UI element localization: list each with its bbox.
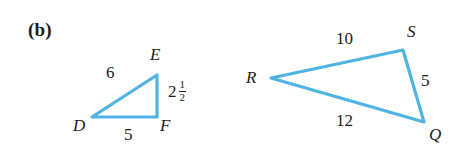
vertex-label-e: E [150,46,160,63]
side-length-rq: 12 [336,112,353,129]
side-length-de: 6 [106,64,115,81]
triangle-def-shape [92,75,157,117]
side-length-ef: 2 1 2 [168,79,186,103]
vertex-label-s: S [407,23,416,40]
side-length-ef-denominator: 2 [179,91,187,104]
side-length-ef-fraction: 1 2 [179,79,187,103]
vertex-label-f: F [160,117,170,134]
triangles-drawing [0,0,459,154]
part-label: (b) [28,19,52,41]
side-length-df: 5 [124,126,133,143]
side-length-sq: 5 [421,72,430,89]
side-length-rs: 10 [336,30,353,47]
vertex-label-d: D [73,117,85,134]
geometry-figure: (b) D E F 6 5 2 1 2 R S Q 10 5 12 [0,0,459,154]
side-length-ef-numerator: 1 [179,79,187,91]
vertex-label-r: R [246,69,256,86]
vertex-label-q: Q [429,126,441,143]
side-length-ef-whole: 2 [168,83,177,100]
